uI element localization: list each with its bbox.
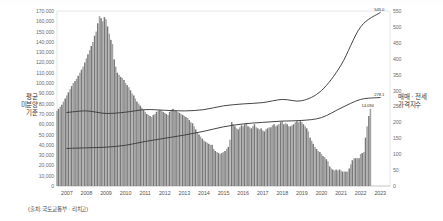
y-axis-tick-left: 10,000 (21, 173, 54, 179)
y-axis-tick-left: 170,000 (21, 8, 54, 14)
y-axis-tick-left: 30,000 (21, 152, 54, 158)
y-axis-tick-right: 0 (393, 183, 409, 189)
y-axis-tick-right: 150 (393, 135, 409, 141)
y-axis-tick-left: 50,000 (21, 132, 54, 138)
y-axis-tick-right: 200 (393, 119, 409, 125)
label-jeonse-index-end: 278.1 (374, 92, 384, 97)
y-axis-tick-left: 140,000 (21, 39, 54, 45)
label-unsold-end: 14,094 (362, 103, 374, 108)
y-axis-tick-left: 60,000 (21, 121, 54, 127)
y-axis-tick-left: 110,000 (21, 70, 54, 76)
y-axis-tick-left: 40,000 (21, 142, 54, 148)
y-axis-tick-right: 550 (393, 8, 409, 14)
y-axis-tick-right: 300 (393, 88, 409, 94)
y-axis-tick-right: 50 (393, 167, 409, 173)
top-edge-strip (0, 0, 443, 5)
x-axis-tick: 2023 (369, 190, 391, 196)
y-axis-tick-left: 130,000 (21, 49, 54, 55)
y-axis-tick-right: 400 (393, 56, 409, 62)
y-axis-tick-left: 150,000 (21, 29, 54, 35)
y-axis-tick-left: 160,000 (21, 18, 54, 24)
source-caption: (출처: 국토교통부 · 리치고) (28, 205, 88, 213)
y-axis-tick-right: 250 (393, 103, 409, 109)
y-axis-tick-left: 90,000 (21, 90, 54, 96)
y-axis-tick-left: 0 (21, 183, 54, 189)
y-axis-tick-right: 450 (393, 40, 409, 46)
y-axis-tick-right: 350 (393, 72, 409, 78)
bar-series-unsold-housing (56, 16, 371, 186)
chart-container: 평균 미분양 기준 매매 · 전세 가격지수 (출처: 국토교통부 · 리치고)… (0, 0, 443, 221)
y-axis-tick-left: 100,000 (21, 80, 54, 86)
y-axis-tick-right: 500 (393, 24, 409, 30)
y-axis-tick-left: 20,000 (21, 162, 54, 168)
y-axis-tick-right: 100 (393, 151, 409, 157)
label-sale-index-end: 545.0 (374, 7, 384, 12)
y-axis-tick-left: 120,000 (21, 59, 54, 65)
y-axis-tick-left: 80,000 (21, 101, 54, 107)
y-axis-tick-left: 70,000 (21, 111, 54, 117)
chart-plot-area (0, 0, 443, 221)
